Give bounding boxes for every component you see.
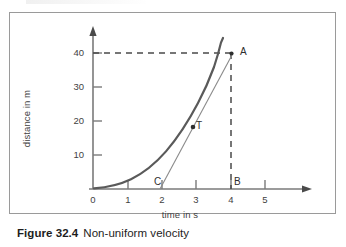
y-tick-label-30: 30 (62, 81, 84, 92)
figure-caption: Figure 32.4Non-uniform velocity (17, 227, 189, 239)
y-tick-label-20: 20 (62, 115, 84, 126)
y-axis-ticks (93, 53, 102, 155)
y-axis (89, 26, 96, 189)
x-axis-title: time in s (135, 209, 225, 220)
x-tick-label-2: 2 (155, 194, 169, 205)
x-tick-label-4: 4 (224, 194, 238, 205)
figure-caption-label: Figure 32.4 (17, 227, 78, 239)
figure-non-uniform-velocity: distance in m time in s 40 30 20 10 0 1 … (0, 0, 346, 247)
x-axis-ticks (128, 180, 265, 189)
point-label-A: A (240, 46, 247, 57)
point-label-B: B (234, 176, 241, 187)
scan-artifact (26, 0, 146, 4)
distance-time-plot (9, 12, 336, 214)
x-tick-label-0: 0 (86, 194, 100, 205)
figure-caption-text: Non-uniform velocity (83, 227, 189, 239)
point-label-C: C (154, 176, 161, 187)
point-marker-A (229, 51, 233, 55)
y-axis-title: distance in m (21, 74, 32, 164)
x-tick-label-3: 3 (189, 194, 203, 205)
point-label-T: T (196, 120, 202, 131)
point-marker-T (191, 125, 196, 130)
y-tick-label-40: 40 (62, 47, 84, 58)
x-axis (89, 185, 312, 192)
distance-time-curve (94, 38, 223, 188)
y-tick-label-10: 10 (62, 149, 84, 160)
x-tick-label-5: 5 (258, 194, 272, 205)
x-tick-label-1: 1 (121, 194, 135, 205)
